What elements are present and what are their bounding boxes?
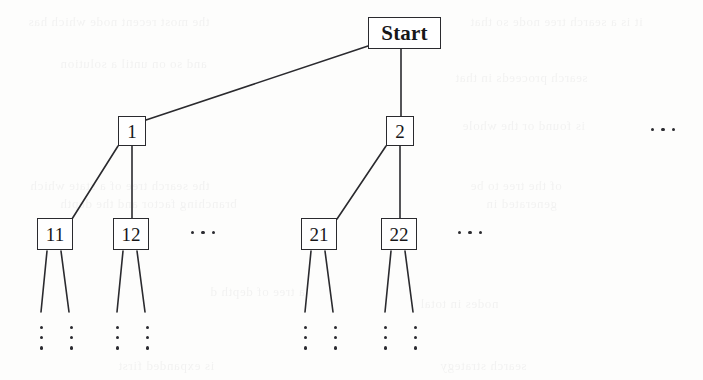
ellipsis-dot	[146, 336, 149, 339]
leaf-stub-n11-0	[41, 251, 47, 312]
ellipsis-dot	[191, 231, 194, 234]
ellipsis-dot	[304, 336, 307, 339]
node-start[interactable]: Start	[368, 17, 441, 49]
leaf-stub-n12-3	[137, 251, 145, 312]
node-21[interactable]: 21	[301, 218, 337, 250]
ellipsis-dot	[414, 336, 417, 339]
leaf-stub-n21-5	[325, 251, 333, 312]
ellipsis-dot	[334, 336, 337, 339]
ellipsis-level1-right	[651, 128, 675, 131]
node-12[interactable]: 12	[113, 218, 149, 250]
vdots-21-b	[334, 326, 337, 350]
ellipsis-dot	[116, 336, 119, 339]
ellipsis-dot	[40, 336, 43, 339]
edge-n2-n21	[337, 146, 386, 219]
ellipsis-dot	[212, 231, 215, 234]
vdots-11-a	[40, 326, 43, 350]
ellipsis-dot	[661, 128, 664, 131]
ellipsis-dot	[304, 346, 307, 349]
leaf-stub-n12-2	[117, 251, 123, 312]
vdots-22-b	[414, 326, 417, 350]
ellipsis-dot	[70, 346, 73, 349]
node-1[interactable]: 1	[118, 116, 146, 146]
ellipsis-dot	[201, 231, 204, 234]
vdots-11-b	[70, 326, 73, 350]
ellipsis-dot	[384, 336, 387, 339]
ellipsis-dot	[384, 346, 387, 349]
tree-diagram: the most recent node which hasit is a se…	[0, 0, 703, 380]
vdots-21-a	[304, 326, 307, 350]
ellipsis-dot	[334, 326, 337, 329]
ellipsis-level2-left	[191, 231, 215, 234]
ellipsis-dot	[40, 326, 43, 329]
ellipsis-dot	[414, 346, 417, 349]
ellipsis-dot	[40, 346, 43, 349]
edge-n1-n11	[72, 146, 118, 219]
ellipsis-dot	[414, 326, 417, 329]
ellipsis-dot	[672, 128, 675, 131]
tree-edges	[0, 0, 703, 380]
node-22[interactable]: 22	[381, 218, 417, 250]
ellipsis-dot	[304, 326, 307, 329]
ellipsis-dot	[651, 128, 654, 131]
leaf-stub-n22-7	[405, 251, 413, 312]
ellipsis-dot	[146, 326, 149, 329]
ellipsis-dot	[146, 346, 149, 349]
node-11[interactable]: 11	[37, 218, 73, 250]
ellipsis-dot	[334, 346, 337, 349]
ellipsis-dot	[70, 336, 73, 339]
ellipsis-dot	[458, 231, 461, 234]
ellipsis-dot	[468, 231, 471, 234]
vdots-12-b	[146, 326, 149, 350]
ellipsis-dot	[116, 346, 119, 349]
ellipsis-level2-right	[458, 231, 482, 234]
ellipsis-dot	[116, 326, 119, 329]
ellipsis-dot	[70, 326, 73, 329]
vdots-22-a	[384, 326, 387, 350]
edge-start-n1	[146, 46, 368, 120]
vdots-12-a	[116, 326, 119, 350]
leaf-stub-n11-1	[61, 251, 69, 312]
node-2[interactable]: 2	[386, 116, 414, 146]
ellipsis-dot	[479, 231, 482, 234]
leaf-stub-n22-6	[385, 251, 391, 312]
leaf-stub-n21-4	[305, 251, 311, 312]
ellipsis-dot	[384, 326, 387, 329]
